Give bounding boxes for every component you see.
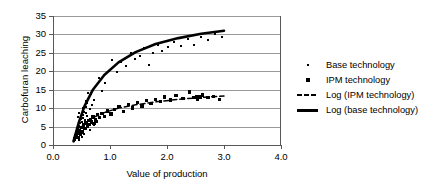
y-tick-label: 30 (16, 29, 46, 39)
x-tick-label: 1.0 (90, 151, 130, 162)
legend: Base technologyIPM technologyLog (IPM te… (296, 58, 422, 118)
legend-label: Log (IPM technology) (326, 89, 414, 102)
legend-item: Log (IPM technology) (296, 88, 422, 103)
y-tick-label: 35 (16, 11, 46, 21)
x-tick-label: 3.0 (204, 151, 244, 162)
dot-marker-icon (296, 58, 322, 73)
x-tick (53, 145, 54, 149)
legend-item: Log (base technology) (296, 103, 422, 118)
legend-item: Base technology (296, 58, 422, 73)
x-tick (110, 145, 111, 149)
dashed-line-icon (296, 88, 322, 103)
chart-figure: Carbofuran leaching 05101520253035 0.01.… (0, 0, 426, 196)
x-tick (167, 145, 168, 149)
x-tick-label: 2.0 (147, 151, 187, 162)
y-tick-label: 25 (16, 48, 46, 58)
solid-line-icon (296, 103, 322, 118)
x-tick-label: 4.0 (261, 151, 301, 162)
fit-curve (74, 96, 225, 141)
x-tick (224, 145, 225, 149)
legend-label: IPM technology (326, 74, 390, 87)
legend-label: Base technology (326, 59, 395, 72)
y-tick-label: 0 (16, 140, 46, 150)
square-marker-icon (296, 73, 322, 88)
x-axis-title: Value of production (53, 168, 281, 179)
y-tick-label: 10 (16, 103, 46, 113)
legend-item: IPM technology (296, 73, 422, 88)
y-tick-label: 15 (16, 85, 46, 95)
fit-curve (74, 31, 225, 142)
fit-curves-layer (53, 16, 281, 145)
y-tick-label: 20 (16, 66, 46, 76)
plot-area (53, 16, 281, 145)
legend-label: Log (base technology) (326, 104, 418, 117)
x-tick-label: 0.0 (33, 151, 73, 162)
x-tick (281, 145, 282, 149)
y-tick-label: 5 (16, 122, 46, 132)
